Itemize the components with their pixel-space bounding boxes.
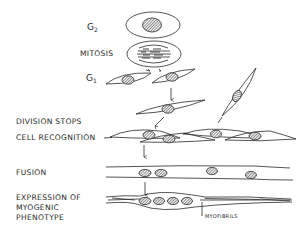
label-expression-line1: EXPRESSION OF [16, 193, 81, 202]
label-fusion: FUSION [16, 168, 46, 177]
label-division-stops: DIVISION STOPS [16, 117, 82, 126]
label-g1: G1 [86, 74, 97, 85]
arrow-to-recognition-right [218, 117, 222, 123]
migrating-cell [222, 68, 256, 116]
label-expression-line2: MYOGENIC [16, 203, 59, 212]
mitosis-cell [127, 41, 181, 71]
label-cell-recognition: CELL RECOGNITION [16, 133, 95, 142]
label-g2: G2 [87, 23, 98, 34]
division-stops-cell [136, 100, 205, 114]
mature-myotube [106, 192, 292, 216]
label-mitosis: MITOSIS [80, 49, 113, 58]
g1-cell-right [152, 69, 195, 83]
g2-cell [126, 12, 180, 38]
cell-recognition-cells [104, 129, 296, 143]
fusion-myotube [106, 166, 293, 180]
myogenesis-diagram: G2 MITOSIS G1 DIVISION STOPS CELL RECOGN… [0, 0, 305, 232]
label-expression-line3: PHENOTYPE [16, 213, 64, 222]
g1-cell-left [106, 73, 151, 84]
label-myofibrils: MYOFIBRILS [205, 212, 238, 221]
arrow-to-recognition-left [155, 117, 164, 126]
